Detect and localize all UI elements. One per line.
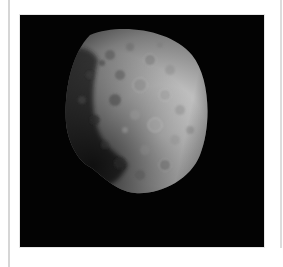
left-margin-rule [8, 0, 10, 267]
moon-illustration [20, 15, 264, 247]
right-margin-rule [280, 0, 282, 248]
moon-photo [20, 15, 264, 247]
moon-body [20, 15, 264, 247]
